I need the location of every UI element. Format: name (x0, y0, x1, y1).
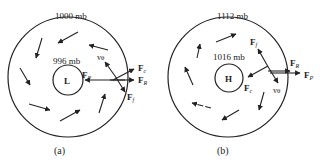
resultant-force-label: FR (138, 75, 148, 86)
low-center-label: L (64, 76, 70, 86)
coriolis-force-label: Fc (244, 83, 253, 94)
coriolis-force-label: Fc (138, 63, 147, 74)
pressure-force-label: FP (82, 70, 92, 81)
caption-b: (b) (217, 145, 229, 157)
friction-force-label: Ff (127, 92, 136, 103)
velocity-vector (105, 62, 115, 76)
friction-force-label: Ff (250, 37, 259, 48)
outer-pressure-label: 1112 mb (217, 11, 249, 21)
panel-a-low-pressure: 1000 mb 996 mb L FP vθ Fc FR Ff (a) (8, 11, 148, 157)
resultant-force-label: FR (290, 58, 300, 69)
friction-vector (115, 76, 125, 92)
inner-pressure-label: 996 mb (53, 56, 81, 66)
outer-pressure-label: 1000 mb (55, 11, 87, 21)
friction-vector (258, 49, 267, 65)
coriolis-vector (248, 66, 268, 77)
velocity-label: vθ (97, 53, 105, 62)
velocity-vector (267, 65, 278, 83)
inner-pressure-label: 1016 mb (213, 52, 245, 62)
cyclone-anticyclone-diagram: 1000 mb 996 mb L FP vθ Fc FR Ff (a) (0, 0, 327, 164)
caption-a: (a) (54, 145, 65, 157)
panel-b-high-pressure: 1112 mb 1016 mb H Ff FR FP Fc vθ (b) (168, 11, 314, 157)
high-center-label: H (225, 74, 232, 84)
pressure-force-label: FP (304, 70, 314, 81)
velocity-label: vθ (273, 86, 281, 95)
